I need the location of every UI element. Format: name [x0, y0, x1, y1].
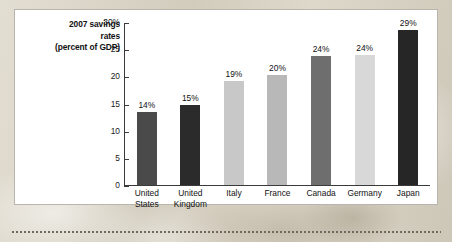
y-axis-tick-label: 10	[111, 126, 120, 136]
y-axis-tick-mark	[124, 186, 129, 187]
x-axis-category-label-line: United	[174, 188, 207, 199]
bar-value-label: 14%	[138, 100, 155, 110]
bar-value-label: 19%	[226, 69, 243, 79]
x-axis-category-label-line: France	[264, 188, 290, 199]
x-axis-category-label-line: Canada	[306, 188, 335, 199]
bar-group: 14%UnitedStates	[125, 23, 169, 185]
y-axis-tick: 10	[86, 132, 130, 133]
chart-title-line-2: rates	[25, 31, 120, 43]
plot-area: 30%2520151050 14%UnitedStates15%UnitedKi…	[124, 23, 430, 186]
bar-group: 24%Canada	[299, 23, 343, 185]
bar-group: 20%France	[256, 23, 300, 185]
x-axis-category-label: Italy	[226, 188, 241, 199]
y-axis-tick-label: 30%	[103, 17, 120, 27]
y-axis-tick: 15	[86, 105, 130, 106]
bar-value-label: 29%	[400, 18, 417, 28]
x-axis-category-label: France	[264, 188, 290, 199]
bar-value-label: 20%	[269, 63, 286, 73]
y-axis-tick: 30%	[86, 23, 130, 24]
bar[interactable]	[311, 56, 331, 185]
chart-card: 2007 savings rates (percent of GDP) 30%2…	[14, 9, 438, 205]
y-axis-tick: 25	[86, 50, 130, 51]
bar[interactable]	[355, 55, 375, 185]
bar-group: 24%Germany	[343, 23, 387, 185]
y-axis-tick: 20	[86, 77, 130, 78]
bar-value-label: 24%	[356, 43, 373, 53]
x-axis-category-label-line: Kingdom	[174, 199, 207, 210]
x-axis-category-label: Canada	[306, 188, 335, 199]
bar-series: 14%UnitedStates15%UnitedKingdom19%Italy2…	[125, 23, 430, 185]
x-axis-category-label-line: United	[135, 188, 159, 199]
bar[interactable]	[267, 75, 287, 185]
bar-value-label: 15%	[182, 93, 199, 103]
chart-title-line-3: (percent of GDP)	[25, 42, 120, 54]
y-axis-tick-label: 20	[111, 71, 120, 81]
bar-group: 19%Italy	[212, 23, 256, 185]
bar[interactable]	[137, 112, 157, 185]
bar[interactable]	[180, 105, 200, 185]
x-axis-category-label-line: States	[135, 199, 159, 210]
dotted-rule-divider	[11, 231, 441, 233]
bar[interactable]	[224, 81, 244, 185]
bar[interactable]	[398, 30, 418, 185]
y-axis-tick: 0	[86, 186, 130, 187]
x-axis-category-label-line: Japan	[397, 188, 420, 199]
x-axis-category-label-line: Germany	[347, 188, 381, 199]
y-axis-tick: 5	[86, 159, 130, 160]
x-axis-category-label: Germany	[347, 188, 381, 199]
bar-value-label: 24%	[313, 44, 330, 54]
x-axis-category-label-line: Italy	[226, 188, 241, 199]
x-axis-line	[124, 185, 430, 186]
y-axis-tick-label: 5	[115, 153, 120, 163]
y-axis-tick-label: 0	[115, 180, 120, 190]
x-axis-category-label: Japan	[397, 188, 420, 199]
bar-group: 29%Japan	[386, 23, 430, 185]
x-axis-category-label: UnitedStates	[135, 188, 159, 209]
x-axis-category-label: UnitedKingdom	[174, 188, 207, 209]
y-axis-tick-label: 15	[111, 99, 120, 109]
y-axis-tick-label: 25	[111, 44, 120, 54]
bar-group: 15%UnitedKingdom	[169, 23, 213, 185]
